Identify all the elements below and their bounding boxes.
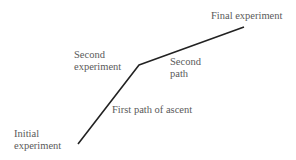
label-line: path [170, 68, 201, 80]
ascent-path-line [78, 27, 244, 144]
label-line: Initial [14, 128, 61, 140]
label-line: Second [74, 49, 121, 61]
label-line: Second [170, 56, 201, 68]
first-path-label: First path of ascent [112, 104, 192, 116]
label-line: experiment [14, 140, 61, 152]
initial-experiment-label: Initial experiment [14, 128, 61, 152]
final-experiment-label: Final experiment [211, 10, 282, 22]
label-line: experiment [74, 61, 121, 73]
second-path-label: Second path [170, 56, 201, 80]
second-experiment-label: Second experiment [74, 49, 121, 73]
